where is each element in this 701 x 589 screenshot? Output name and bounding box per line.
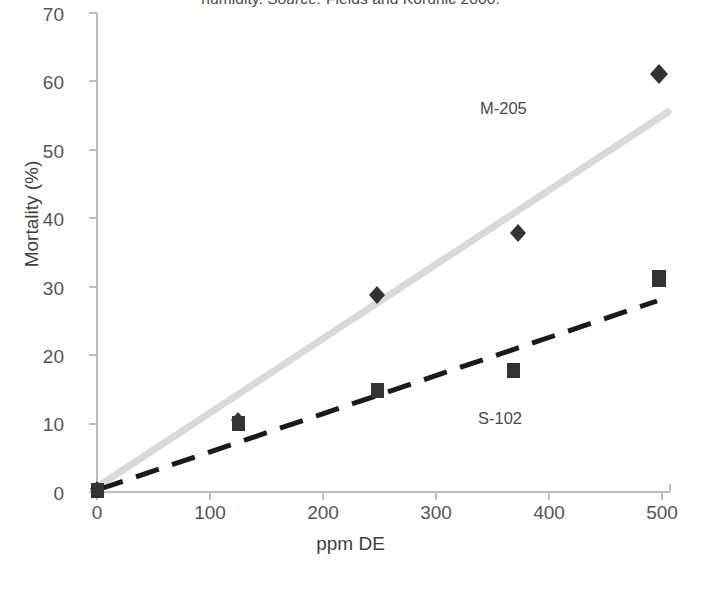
- data-point-m205-375: [510, 224, 526, 242]
- data-point-s102-0: [91, 483, 104, 498]
- data-point-s102-375: [507, 363, 520, 378]
- data-point-s102-500: [652, 270, 666, 287]
- axis-lines: [97, 13, 670, 492]
- figure-container: humidity. Source: Fields and Korunic 200…: [0, 0, 701, 589]
- y-axis-ticks: [89, 13, 97, 492]
- plot-area: [0, 0, 701, 589]
- data-point-m205-500: [650, 64, 668, 84]
- data-point-s102-125: [232, 416, 245, 431]
- trendline-m205: [97, 112, 668, 487]
- data-point-s102-250: [371, 383, 384, 398]
